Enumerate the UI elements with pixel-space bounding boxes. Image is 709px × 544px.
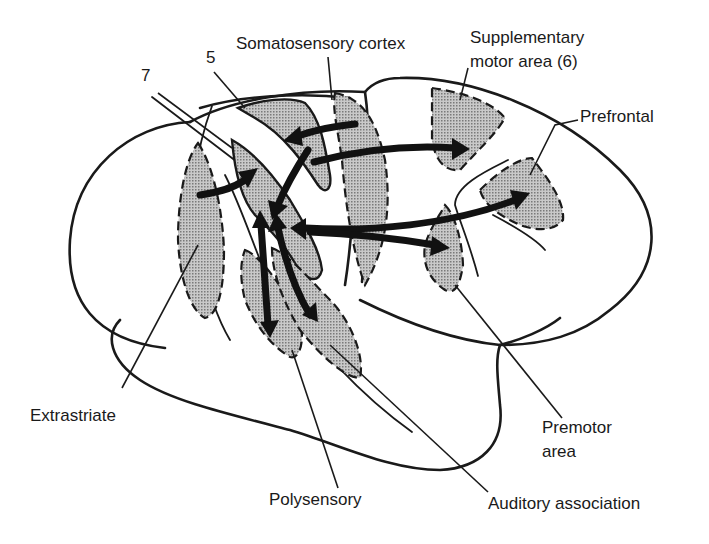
- label-premotor-line2: area: [542, 442, 576, 462]
- label-extrastriate: Extrastriate: [30, 406, 116, 426]
- extrastriate-region: [178, 143, 224, 318]
- label-supplementary-line2: motor area (6): [470, 52, 578, 72]
- brain-drawing: [0, 0, 709, 544]
- label-premotor-line1: Premotor: [542, 418, 612, 438]
- label-auditory-association: Auditory association: [488, 494, 640, 514]
- arrow-5-to-7: [278, 150, 308, 205]
- supplementary-motor-region: [432, 88, 505, 170]
- label-supplementary-line1: Supplementary: [470, 28, 584, 48]
- label-polysensory: Polysensory: [269, 490, 362, 510]
- label-prefrontal: Prefrontal: [580, 107, 654, 127]
- brain-connectivity-diagram: 7 5 Somatosensory cortex Supplementary m…: [0, 0, 709, 544]
- label-area-5: 5: [206, 48, 215, 68]
- label-somatosensory-cortex: Somatosensory cortex: [236, 34, 405, 54]
- somatosensory-region: [334, 93, 387, 285]
- arrow-7-prefrontal: [305, 200, 515, 229]
- label-area-7: 7: [141, 66, 150, 86]
